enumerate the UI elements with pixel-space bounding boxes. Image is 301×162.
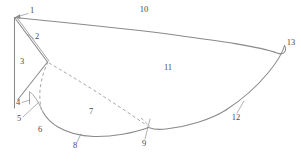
callout-label-6: 6 [38,124,42,134]
callout-label-7: 7 [89,106,93,116]
leader-line-4 [22,100,30,103]
upper-surface-curve [15,18,286,54]
dashed-chord [49,63,148,126]
patent-figure: 1 2 3 4 5 6 7 8 9 10 11 12 13 [0,0,301,162]
callout-label-11: 11 [164,62,172,72]
callout-label-2: 2 [35,31,39,41]
callout-label-12: 12 [232,112,241,122]
callout-label-5: 5 [17,113,21,123]
leader-line-5 [23,103,38,117]
trailing-edge-tip-curve [226,46,285,111]
figure-canvas: 1 2 3 4 5 6 7 8 9 10 11 12 13 [0,0,301,162]
callout-label-10: 10 [140,4,149,14]
callout-label-13: 13 [287,37,296,47]
triangle-upper-edge-inner [18,19,50,62]
callout-label-4: 4 [16,97,21,107]
dashed-inner-curve [40,62,48,110]
callout-label-1: 1 [30,5,34,15]
callout-label-3: 3 [20,56,24,66]
callout-label-9: 9 [142,138,146,148]
lower-surface-curve [149,110,227,129]
callout-label-8: 8 [73,140,77,150]
